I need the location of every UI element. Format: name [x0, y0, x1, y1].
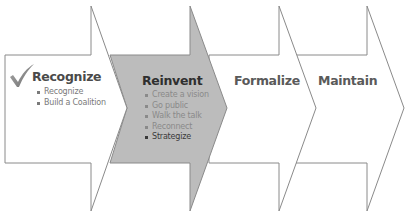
bullet-item: Create a vision: [144, 90, 209, 101]
bullet-icon: [37, 102, 40, 105]
stage-bullets: Create a vision Go public Walk the talk …: [144, 90, 209, 143]
bullet-icon: [145, 126, 148, 129]
bullet-item: Recognize: [36, 87, 106, 98]
bullet-icon: [145, 94, 148, 97]
bullet-item-emphasized: Strategize: [144, 132, 209, 143]
stage-title: Formalize: [234, 73, 300, 88]
bullet-item: Reconnect: [144, 122, 209, 133]
bullet-icon: [145, 136, 148, 139]
bullet-icon: [145, 115, 148, 118]
stage-title: Reinvent: [142, 73, 202, 88]
bullet-item: Build a Coalition: [36, 98, 106, 109]
stage-title: Recognize: [32, 69, 101, 84]
bullet-item: Go public: [144, 101, 209, 112]
stage-bullets: Recognize Build a Coalition: [36, 87, 106, 108]
arrow-recognize: [5, 6, 127, 211]
bullet-icon: [145, 105, 148, 108]
stage-title: Maintain: [318, 73, 377, 88]
bullet-item: Walk the talk: [144, 111, 209, 122]
bullet-icon: [37, 91, 40, 94]
